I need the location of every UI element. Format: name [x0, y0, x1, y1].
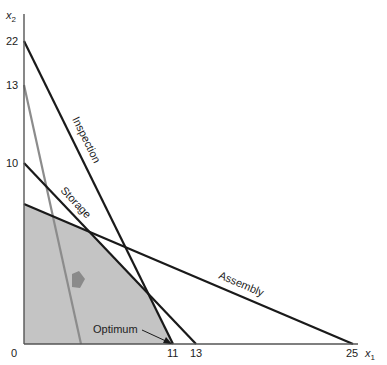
x-axis-label: x1: [364, 347, 376, 362]
optimum-label: Optimum: [93, 323, 138, 335]
x-tick-11: 11: [167, 347, 178, 359]
y-tick-10: 10: [6, 157, 18, 169]
storage-label: Storage: [59, 184, 94, 220]
y-axis-label: x2: [5, 9, 17, 24]
x-tick-25: 25: [346, 347, 358, 359]
x-tick-13: 13: [190, 347, 202, 359]
assembly-label: Assembly: [217, 269, 266, 299]
inspection-label: Inspection: [70, 115, 103, 165]
y-tick-13: 13: [6, 79, 18, 91]
y-tick-22: 22: [6, 35, 18, 47]
origin-label: 0: [11, 347, 17, 359]
linear-programming-diagram: x2 x1 0 11 13 25 22 13 10 Inspection Sto…: [0, 0, 387, 365]
